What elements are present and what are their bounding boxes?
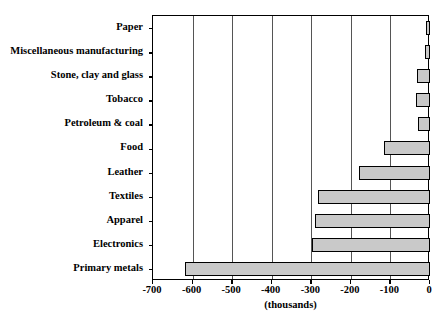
y-axis-tick: [149, 28, 153, 29]
y-axis-label: Miscellaneous manufacturing: [10, 39, 143, 63]
y-axis-tick: [149, 245, 153, 246]
y-axis-tick: [149, 269, 153, 270]
bar: [425, 45, 430, 59]
bar-row: [153, 16, 428, 40]
y-axis-label: Apparel: [106, 208, 143, 232]
y-axis-label: Primary metals: [73, 256, 143, 280]
x-axis-tick-labels: -700-600-500-400-300-200-1000: [152, 284, 429, 299]
x-axis-tick-label: -500: [222, 284, 241, 295]
bar-row: [153, 112, 428, 136]
bar: [426, 21, 430, 35]
y-axis-tick: [149, 52, 153, 53]
bar: [318, 190, 430, 204]
y-axis-tick: [149, 149, 153, 150]
plot-inner: [153, 16, 428, 279]
bar-row: [153, 64, 428, 88]
y-axis-tick: [149, 197, 153, 198]
y-axis-tick: [149, 76, 153, 77]
y-axis-label: Paper: [116, 15, 143, 39]
bar-row: [153, 209, 428, 233]
bar-row: [153, 161, 428, 185]
y-axis-label: Stone, clay and glass: [51, 63, 143, 87]
x-axis-tick-label: -600: [182, 284, 201, 295]
y-axis-tick: [149, 100, 153, 101]
bar-row: [153, 233, 428, 257]
x-axis-tick-label: -200: [340, 284, 359, 295]
bar-row: [153, 185, 428, 209]
x-axis-title: (thousands): [152, 299, 429, 310]
x-axis-tick-label: -300: [301, 284, 320, 295]
bar: [185, 262, 430, 276]
x-axis-tick-label: 0: [426, 284, 431, 295]
bar: [315, 214, 430, 228]
bar: [416, 93, 430, 107]
y-axis-category-labels: PaperMiscellaneous manufacturingStone, c…: [0, 15, 148, 280]
bar: [359, 166, 430, 180]
bar-row: [153, 136, 428, 160]
x-axis-tick-label: -700: [142, 284, 161, 295]
bar: [417, 69, 430, 83]
bar: [418, 117, 430, 131]
y-axis-label: Textiles: [109, 184, 143, 208]
bar-chart: PaperMiscellaneous manufacturingStone, c…: [0, 0, 444, 322]
y-axis-label: Tobacco: [106, 87, 143, 111]
bar: [312, 238, 430, 252]
y-axis-label: Electronics: [93, 232, 143, 256]
y-axis-tick: [149, 124, 153, 125]
bar: [384, 141, 430, 155]
bar-row: [153, 88, 428, 112]
bar-row: [153, 40, 428, 64]
x-axis-tick-label: -100: [380, 284, 399, 295]
x-axis-tick-label: -400: [261, 284, 280, 295]
y-axis-tick: [149, 221, 153, 222]
bar-row: [153, 257, 428, 281]
y-axis-label: Petroleum & coal: [64, 111, 143, 135]
y-axis-tick: [149, 173, 153, 174]
plot-area: [152, 15, 429, 280]
y-axis-label: Leather: [107, 160, 143, 184]
y-axis-label: Food: [120, 135, 143, 159]
